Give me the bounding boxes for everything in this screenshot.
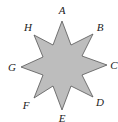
star-diagram: A B C D E F G H xyxy=(0,0,118,122)
vertex-label-d: D xyxy=(95,96,104,108)
vertex-label-g: G xyxy=(8,61,16,73)
vertex-label-a: A xyxy=(58,4,66,16)
vertex-label-e: E xyxy=(58,112,66,122)
vertex-label-f: F xyxy=(22,99,30,111)
vertex-label-c: C xyxy=(110,59,118,71)
vertex-label-h: H xyxy=(23,21,33,33)
eight-pointed-star-shape xyxy=(21,21,107,110)
vertex-label-b: B xyxy=(97,21,104,33)
